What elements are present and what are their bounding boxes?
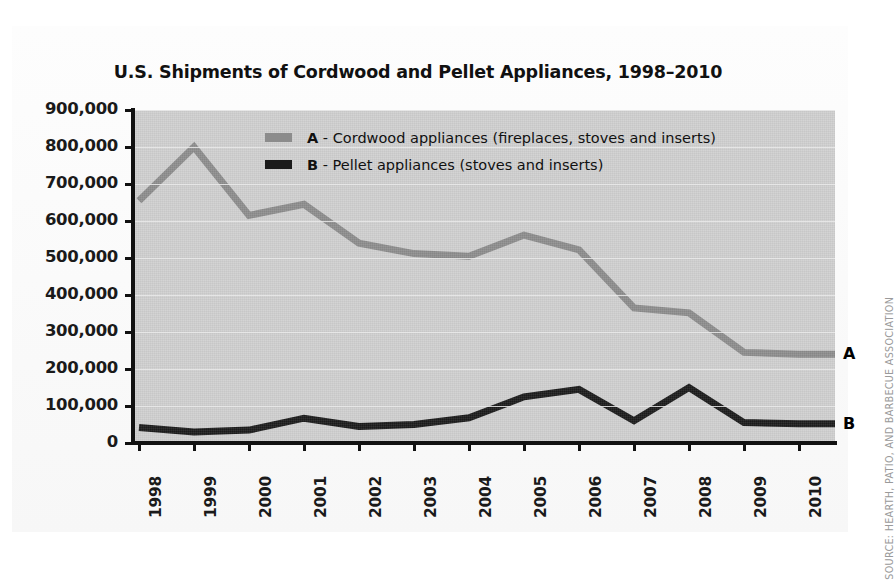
y-axis-tick [125, 331, 132, 334]
y-axis-line [131, 108, 135, 445]
legend-label-a: A - Cordwood appliances (fireplaces, sto… [307, 130, 716, 146]
y-axis-tick-label: 0 [8, 432, 118, 451]
x-axis-tick-label: 2010 [807, 452, 825, 518]
x-axis-tick [578, 444, 581, 451]
legend-key-b: B [307, 157, 318, 173]
x-axis-tick [358, 444, 361, 451]
y-axis-tick-label: 200,000 [8, 358, 118, 377]
x-axis-tick [468, 444, 471, 451]
y-axis-tick [125, 442, 132, 445]
x-axis-tick-label: 2001 [312, 452, 330, 518]
source-note: SOURCE: HEARTH, PATIO, AND BARBECUE ASSO… [884, 297, 895, 580]
gridline [135, 332, 835, 333]
x-axis-tick-label: 2007 [642, 452, 660, 518]
x-axis-tick [688, 444, 691, 451]
y-axis-tick [125, 146, 132, 149]
legend-item-b: B - Pellet appliances (stoves and insert… [265, 151, 716, 178]
legend-swatch-b [265, 160, 292, 169]
y-axis-tick [125, 220, 132, 223]
chart-title: U.S. Shipments of Cordwood and Pellet Ap… [0, 62, 836, 82]
gridline [135, 184, 835, 185]
x-axis-tick-label: 2004 [477, 452, 495, 518]
gridline [135, 406, 835, 407]
y-axis-tick-label: 900,000 [8, 99, 118, 118]
y-axis-tick-label: 400,000 [8, 284, 118, 303]
x-axis-tick-label: 1998 [147, 452, 165, 518]
x-axis-tick-label: 2003 [422, 452, 440, 518]
y-axis-tick [125, 405, 132, 408]
y-axis-tick [125, 294, 132, 297]
y-axis-tick [125, 257, 132, 260]
y-axis-tick-label: 800,000 [8, 136, 118, 155]
x-axis-tick [743, 444, 746, 451]
y-axis-tick-label: 300,000 [8, 321, 118, 340]
x-axis-tick [413, 444, 416, 451]
y-axis-tick [125, 368, 132, 371]
x-axis-tick [193, 444, 196, 451]
x-axis-line [131, 441, 837, 445]
legend-desc-a: Cordwood appliances (fireplaces, stoves … [333, 130, 716, 146]
gridline [135, 221, 835, 222]
x-axis-tick-label: 2005 [532, 452, 550, 518]
x-axis-tick [798, 444, 801, 451]
y-axis-tick-label: 700,000 [8, 173, 118, 192]
y-axis-tick-label: 100,000 [8, 395, 118, 414]
x-axis-tick-label: 2000 [257, 452, 275, 518]
legend-key-a: A [307, 130, 318, 146]
x-axis-tick-label: 1999 [202, 452, 220, 518]
series-end-label-b: B [843, 414, 855, 433]
legend-swatch-a [265, 133, 292, 142]
y-axis-tick-label: 500,000 [8, 247, 118, 266]
y-axis-tick [125, 109, 132, 112]
x-axis-tick-label: 2008 [697, 452, 715, 518]
series-end-label-a: A [843, 344, 855, 363]
gridline [135, 258, 835, 259]
x-axis-tick [523, 444, 526, 451]
x-axis-tick [248, 444, 251, 451]
x-axis-tick-label: 2002 [367, 452, 385, 518]
x-axis-tick-label: 2009 [752, 452, 770, 518]
x-axis-tick-label: 2006 [587, 452, 605, 518]
x-axis-tick [303, 444, 306, 451]
x-axis-tick [138, 444, 141, 451]
chart-legend: A - Cordwood appliances (fireplaces, sto… [265, 124, 716, 178]
gridline [135, 369, 835, 370]
y-axis-tick [125, 183, 132, 186]
x-axis-tick [633, 444, 636, 451]
legend-desc-b: Pellet appliances (stoves and inserts) [333, 157, 604, 173]
gridline [135, 295, 835, 296]
gridline [135, 110, 835, 111]
legend-item-a: A - Cordwood appliances (fireplaces, sto… [265, 124, 716, 151]
legend-label-b: B - Pellet appliances (stoves and insert… [307, 157, 603, 173]
y-axis-tick-label: 600,000 [8, 210, 118, 229]
